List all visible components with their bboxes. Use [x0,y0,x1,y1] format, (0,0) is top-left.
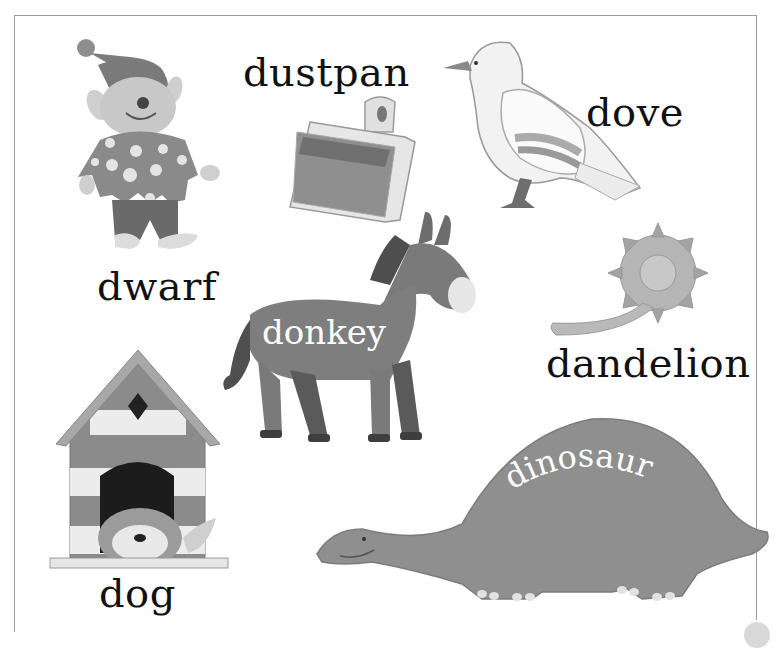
label-dandelion: dandelion [546,343,750,383]
label-dwarf: dwarf [97,266,217,306]
label-dustpan: dustpan [243,52,410,92]
frame-border-top [14,15,757,16]
dwarf-icon [70,35,230,265]
label-donkey: donkey [262,315,386,349]
page-corner-dot [744,622,770,648]
dinosaur-icon: dinosaur [312,404,772,604]
frame-border-left [14,15,15,632]
dustpan-icon [285,92,420,224]
label-dove: dove [586,92,684,132]
label-dog: dog [99,573,176,613]
dandelion-icon [548,228,718,343]
doghouse-icon [48,348,228,573]
